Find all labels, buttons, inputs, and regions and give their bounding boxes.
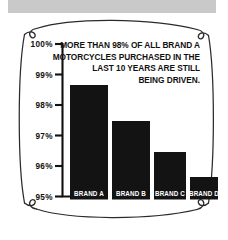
y-axis: 100% 99% 98% 97% 96% 95% [30, 40, 70, 202]
bars-group: BRAND A BRAND B BRAND C BRAND D [70, 85, 219, 200]
callout-line-1: MORE THAN 98% OF ALL BRAND A [60, 40, 200, 50]
callout-text-block: MORE THAN 98% OF ALL BRAND A MOTORCYCLES… [53, 40, 201, 85]
y-tick-label-98: 98% [35, 101, 53, 110]
y-tick-label-100: 100% [30, 40, 53, 49]
bar-label-brand-c: BRAND C [155, 190, 185, 197]
y-tick-label-95: 95% [35, 193, 53, 202]
bar-chart-plot: 100% 99% 98% 97% 96% 95% BRAND A BRAND B… [0, 0, 228, 240]
callout-line-4: BEING DRIVEN. [138, 75, 200, 85]
bar-label-brand-b: BRAND B [116, 190, 146, 197]
bar-label-brand-d: BRAND D [189, 190, 219, 197]
y-tick-label-96: 96% [35, 162, 53, 171]
bar-brand-b[interactable] [112, 121, 150, 200]
y-axis-line [63, 44, 71, 197]
chart-figure: 100% 99% 98% 97% 96% 95% BRAND A BRAND B… [0, 0, 228, 240]
bar-label-brand-a: BRAND A [74, 190, 104, 197]
bar-brand-a[interactable] [70, 85, 108, 200]
y-tick-label-97: 97% [35, 132, 53, 141]
y-tick-label-99: 99% [35, 71, 53, 80]
callout-line-3: LAST 10 YEARS ARE STILL [92, 63, 200, 73]
callout-line-2: MOTORCYCLES PURCHASED IN THE [53, 52, 201, 62]
